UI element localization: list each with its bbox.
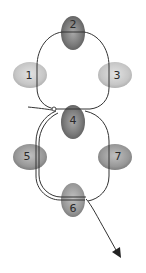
- bead-diagram: 1 2 3 4 5 6 7: [0, 0, 146, 273]
- bead-3-label: 3: [114, 69, 121, 82]
- bead-4: 4: [61, 105, 85, 139]
- arrow-head-icon: [112, 247, 121, 258]
- bead-1-label: 1: [26, 69, 33, 82]
- knot-icon: [52, 107, 56, 111]
- bead-4-label: 4: [70, 114, 77, 127]
- bead-6-label: 6: [70, 202, 77, 215]
- bead-2-label: 2: [70, 18, 77, 31]
- bead-7-label: 7: [115, 150, 122, 163]
- bead-3: 3: [98, 62, 132, 88]
- bead-5: 5: [13, 144, 47, 170]
- bead-1: 1: [13, 62, 47, 88]
- bead-7: 7: [98, 144, 132, 170]
- thread-exit: [86, 199, 116, 250]
- bead-5-label: 5: [24, 150, 31, 163]
- bead-2: 2: [61, 16, 85, 50]
